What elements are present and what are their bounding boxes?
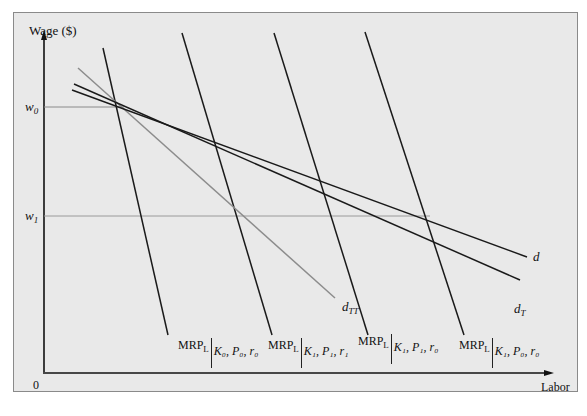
x-axis-arrow-icon	[544, 370, 554, 376]
d-curve-label: d	[533, 250, 540, 263]
mrp-label-k1-p0-r0: MRPL K₁, P₀, r₀	[459, 338, 539, 368]
origin-label: 0	[33, 379, 39, 391]
mrp-line-k1-p1-r1	[182, 33, 272, 335]
mrp-label-k1-p1-r1: MRPL K₁, P₁, r₁	[268, 338, 348, 368]
mrp-line-k0-p0-r0	[103, 48, 168, 335]
dT-curve	[74, 84, 520, 280]
w1-tick-label: w1	[25, 209, 38, 225]
y-axis-label: Wage ($)	[29, 24, 77, 37]
x-axis-label: Labor	[541, 381, 570, 393]
dT-curve-label: dT	[514, 302, 526, 318]
mrp-label-k0-p0-r0: MRPL K₀, P₀, r₀	[178, 338, 258, 368]
mrp-line-k1-p0-r0	[365, 32, 464, 335]
mrp-label-k1-p1-r0: MRPL K₁, P₁, r₀	[358, 334, 438, 364]
mrp-line-k1-p1-r0	[274, 33, 368, 335]
w0-tick-label: w0	[25, 100, 38, 116]
dTT-curve-label: dTT	[342, 300, 359, 316]
